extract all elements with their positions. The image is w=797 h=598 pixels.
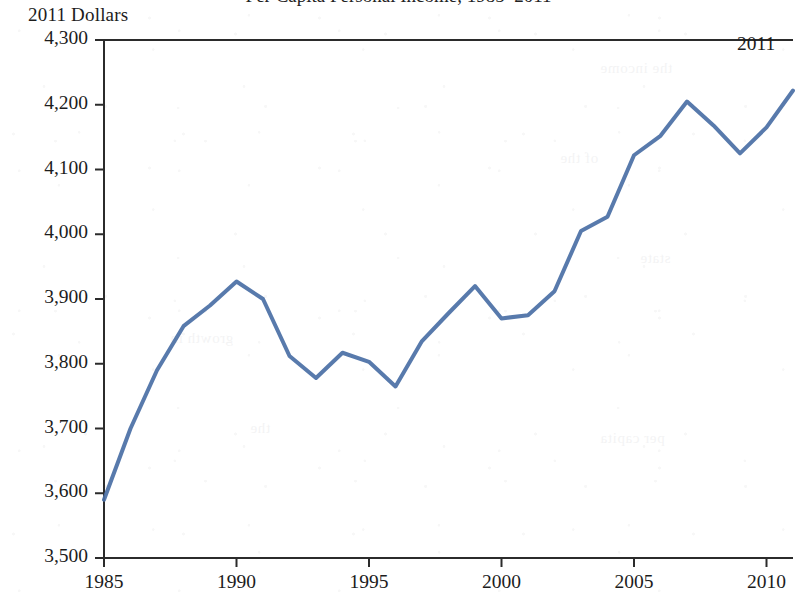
x-axis-tick-label: 1990 [192, 571, 282, 593]
x-axis-tick-label: 2005 [589, 571, 679, 593]
data-series-line [104, 91, 793, 500]
y-axis-tick-label: 4,100 [44, 157, 88, 179]
y-axis-tick-label: 4,000 [44, 221, 88, 243]
data-series-layer [104, 91, 793, 500]
axis-layer [95, 40, 793, 567]
y-axis-tick-label: 3,800 [44, 351, 88, 373]
y-axis-tick-label: 3,700 [44, 416, 88, 438]
x-axis-tick-label: 2000 [457, 571, 547, 593]
plot-canvas [0, 0, 797, 598]
chart-figure: Per Capita Personal Income, 1985–2011 20… [0, 0, 797, 598]
y-axis-tick-label: 4,200 [44, 92, 88, 114]
series-point-annotation: 2011 [737, 33, 775, 55]
x-axis-tick-label: 2010 [722, 571, 797, 593]
x-axis-tick-label: 1995 [324, 571, 414, 593]
y-axis-tick-label: 3,600 [44, 480, 88, 502]
y-axis-tick-label: 3,500 [44, 545, 88, 567]
y-axis-tick-label: 3,900 [44, 286, 88, 308]
x-axis-tick-label: 1985 [59, 571, 149, 593]
y-axis-tick-label: 4,300 [44, 27, 88, 49]
